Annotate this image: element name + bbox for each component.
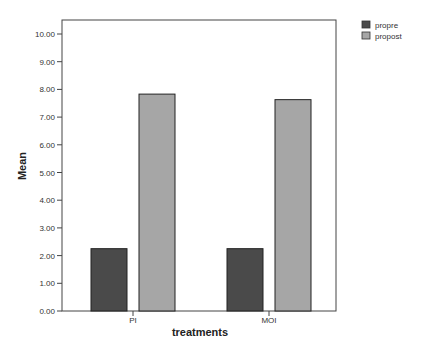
bar-propost-moi (275, 100, 311, 311)
legend-swatch-propre (362, 21, 370, 28)
x-tick-label: MOI (261, 316, 276, 325)
y-tick-label: 9.00 (39, 58, 55, 67)
y-tick-label: 7.00 (39, 113, 55, 122)
y-tick-label: 3.00 (39, 224, 55, 233)
x-axis: PIMOI (129, 311, 276, 325)
y-tick-label: 10.00 (35, 30, 56, 39)
y-tick-label: 6.00 (39, 141, 55, 150)
y-tick-label: 1.00 (39, 279, 55, 288)
bar-propost-pi (139, 94, 175, 311)
x-tick-label: PI (129, 316, 137, 325)
bar-propre-moi (227, 249, 263, 311)
legend-swatch-propost (362, 32, 370, 39)
y-tick-label: 2.00 (39, 252, 55, 261)
y-tick-label: 4.00 (39, 196, 55, 205)
bar-chart: 0.001.002.003.004.005.006.007.008.009.00… (0, 0, 429, 353)
y-axis: 0.001.002.003.004.005.006.007.008.009.00… (35, 30, 62, 316)
legend: proprepropost (362, 21, 402, 41)
y-tick-label: 8.00 (39, 85, 55, 94)
bar-propre-pi (91, 249, 127, 311)
legend-label-propre: propre (375, 21, 399, 30)
y-axis-title: Mean (16, 152, 28, 180)
y-tick-label: 5.00 (39, 169, 55, 178)
x-axis-title: treatments (172, 326, 228, 338)
y-tick-label: 0.00 (39, 307, 55, 316)
legend-label-propost: propost (375, 32, 402, 41)
